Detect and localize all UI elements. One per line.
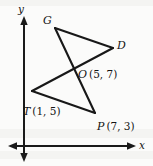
x-axis-left-arrowhead [8,142,17,149]
point-label-D: D [117,40,126,51]
point-coord-T: (1, 5) [32,105,60,117]
y-axis-down-arrowhead [20,153,27,162]
y-axis-up-arrowhead [20,16,27,25]
figure-canvas [0,0,153,166]
point-label-T-group: T(1, 5) [23,102,61,118]
point-label-G: G [43,15,52,26]
point-label-O: O [78,68,87,81]
x-axis-right-arrowhead [127,142,136,149]
point-label-O-group: O(5, 7) [78,65,117,81]
point-label-P-group: P(7, 3) [97,117,135,133]
point-label-P: P [97,120,104,133]
x-axis-label: x [139,140,145,151]
point-label-T: T [23,105,30,118]
point-coord-P: (7, 3) [106,120,134,132]
y-axis-label: y [18,4,24,15]
geometry-figure: y x G D O(5, 7) T(1, 5) P(7, 3) [0,0,153,166]
point-coord-O: (5, 7) [89,68,117,80]
